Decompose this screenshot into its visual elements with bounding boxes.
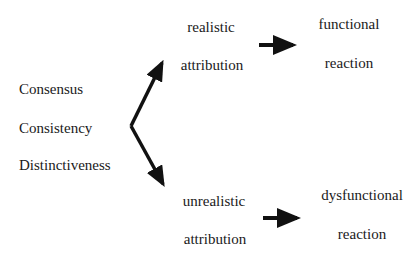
branch-arrow-down bbox=[131, 126, 163, 184]
dysfunctional-label: dysfunctional bbox=[321, 188, 403, 203]
unrealistic-label: unrealistic bbox=[183, 194, 245, 209]
factor-consistency: Consistency bbox=[19, 121, 92, 136]
functional-reaction-label: reaction bbox=[325, 56, 373, 71]
realistic-label: realistic bbox=[187, 20, 234, 35]
realistic-attribution-label: attribution bbox=[181, 58, 244, 73]
dysfunctional-reaction-label: reaction bbox=[338, 227, 386, 242]
branch-arrow-up bbox=[131, 63, 162, 126]
factor-consensus: Consensus bbox=[19, 82, 83, 97]
unrealistic-attribution-label: attribution bbox=[184, 232, 247, 247]
factor-distinctiveness: Distinctiveness bbox=[19, 158, 111, 173]
functional-label: functional bbox=[319, 17, 380, 32]
